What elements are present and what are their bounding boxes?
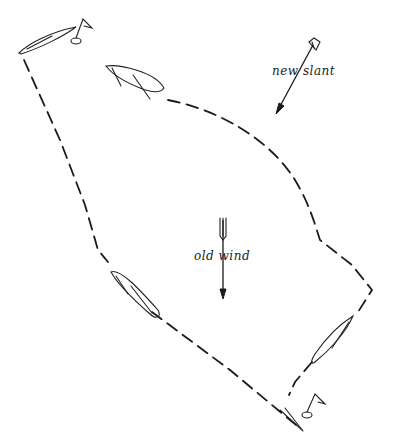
new-slant-label: new slant	[272, 64, 335, 78]
finish-approach-path	[289, 362, 312, 395]
finish-buoy-flag-icon	[280, 394, 325, 431]
start-buoy-flag-icon	[71, 19, 92, 44]
left-course-path	[24, 60, 296, 425]
boat-top-left	[19, 27, 76, 54]
boat-lower-left	[111, 272, 159, 318]
right-course-path	[168, 100, 372, 312]
boat-lower-right	[312, 316, 353, 363]
boat-upper-middle	[106, 66, 164, 99]
old-wind-label: old wind	[194, 249, 250, 263]
